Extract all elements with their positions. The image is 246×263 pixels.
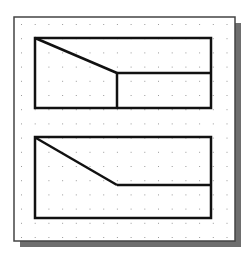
grid-dot (48, 95, 49, 96)
grid-dot (76, 95, 77, 96)
grid-dot (144, 223, 145, 224)
grid-dot (199, 194, 200, 195)
grid-dot (227, 24, 228, 25)
grid-dot (158, 223, 159, 224)
grid-dot (158, 237, 159, 238)
grid-dot (185, 95, 186, 96)
grid-dot (35, 237, 36, 238)
grid-dot (213, 209, 214, 210)
grid-dot (117, 67, 118, 68)
grid-dot (62, 223, 63, 224)
grid-dot (62, 95, 63, 96)
grid-dot (21, 152, 22, 153)
grid-dot (227, 152, 228, 153)
grid-dot (35, 123, 36, 124)
grid-dot (21, 24, 22, 25)
grid-dot (90, 123, 91, 124)
grid-dot (185, 194, 186, 195)
grid-dot (103, 194, 104, 195)
grid-dot (103, 180, 104, 181)
grid-dot (21, 67, 22, 68)
grid-dot (199, 166, 200, 167)
grid-dot (144, 152, 145, 153)
grid-dot (227, 81, 228, 82)
grid-dot (103, 209, 104, 210)
grid-dot (158, 109, 159, 110)
grid-dot (131, 67, 132, 68)
grid-dot (117, 237, 118, 238)
grid-dot (103, 52, 104, 53)
grid-dot (172, 81, 173, 82)
grid-dot (172, 24, 173, 25)
grid-dot (117, 166, 118, 167)
grid-dot (90, 223, 91, 224)
grid-dot (76, 24, 77, 25)
grid-dot (213, 180, 214, 181)
grid-dot (185, 209, 186, 210)
grid-dot (227, 123, 228, 124)
grid-dot (48, 237, 49, 238)
grid-dot (48, 180, 49, 181)
grid-dot (158, 95, 159, 96)
grid-dot (76, 67, 77, 68)
grid-dot (144, 67, 145, 68)
grid-dot (76, 152, 77, 153)
grid-dot (213, 24, 214, 25)
grid-dot (185, 81, 186, 82)
grid-dot (144, 123, 145, 124)
grid-dot (76, 52, 77, 53)
grid-dot (131, 166, 132, 167)
grid-dot (62, 123, 63, 124)
grid-dot (62, 81, 63, 82)
grid-dot (131, 52, 132, 53)
grid-dot (76, 109, 77, 110)
grid-dot (76, 237, 77, 238)
drawing-frame (14, 17, 235, 241)
grid-dot (199, 95, 200, 96)
grid-dot (21, 209, 22, 210)
grid-dot (48, 81, 49, 82)
grid-dot (90, 209, 91, 210)
grid-dot (158, 123, 159, 124)
grid-dot (213, 166, 214, 167)
grid-dot (185, 123, 186, 124)
grid-dot (21, 166, 22, 167)
grid-dot (21, 95, 22, 96)
grid-dot (158, 67, 159, 68)
grid-dot (131, 237, 132, 238)
grid-dot (144, 209, 145, 210)
grid-dot (131, 81, 132, 82)
grid-dot (185, 152, 186, 153)
grid-dot (199, 67, 200, 68)
grid-dot (76, 209, 77, 210)
grid-dot (21, 194, 22, 195)
grid-dot (172, 209, 173, 210)
grid-dot (103, 123, 104, 124)
grid-dot (62, 52, 63, 53)
grid-dot (21, 180, 22, 181)
grid-dot (185, 109, 186, 110)
grid-dot (185, 180, 186, 181)
grid-dot (76, 194, 77, 195)
grid-dot (131, 209, 132, 210)
grid-dot (48, 209, 49, 210)
grid-dot (172, 194, 173, 195)
grid-dot (199, 109, 200, 110)
grid-dot (144, 52, 145, 53)
grid-dot (131, 194, 132, 195)
grid-dot (90, 81, 91, 82)
grid-dot (90, 95, 91, 96)
grid-dot (213, 152, 214, 153)
grid-dot (35, 24, 36, 25)
grid-dot (131, 109, 132, 110)
grid-dot (21, 38, 22, 39)
grid-dot (103, 24, 104, 25)
grid-dot (144, 24, 145, 25)
grid-dot (213, 109, 214, 110)
grid-dot (62, 166, 63, 167)
grid-dot (76, 166, 77, 167)
grid-dot (48, 24, 49, 25)
grid-dot (213, 95, 214, 96)
grid-dot (227, 38, 228, 39)
grid-dot (199, 209, 200, 210)
